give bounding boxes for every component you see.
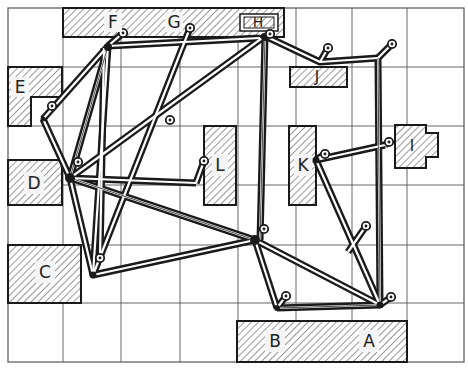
pin-icon [385, 138, 393, 146]
diagram-canvas: F G H E D C L K J I B A [0, 0, 468, 368]
label-h: H [253, 14, 264, 30]
label-j: J [314, 68, 319, 86]
pin-icon [96, 254, 104, 262]
label-k: K [297, 155, 309, 175]
layout-diagram: F G H E D C L K J I B A [0, 0, 468, 368]
pin-icon [387, 293, 395, 301]
label-b: B [269, 331, 281, 351]
pin-icon [186, 24, 194, 32]
pin-icon [200, 157, 208, 165]
block-ab [237, 321, 407, 362]
label-g: G [167, 12, 180, 32]
pin-icon [282, 292, 290, 300]
pin-icon [388, 40, 396, 48]
pin-icon [321, 150, 329, 158]
pin-icon [74, 158, 82, 166]
pin-icon [324, 44, 332, 52]
label-c: C [39, 262, 51, 282]
pin-icon [266, 30, 274, 38]
label-i: I [410, 137, 414, 155]
pin-icon [48, 102, 56, 110]
pin-icon [166, 116, 174, 124]
label-e: E [15, 77, 26, 97]
label-a: A [363, 331, 375, 351]
pin-icon [260, 225, 268, 233]
label-l: L [215, 155, 225, 175]
label-d: D [27, 173, 40, 193]
label-f: F [108, 12, 118, 32]
block-i [395, 125, 438, 168]
pin-icon [362, 222, 370, 230]
